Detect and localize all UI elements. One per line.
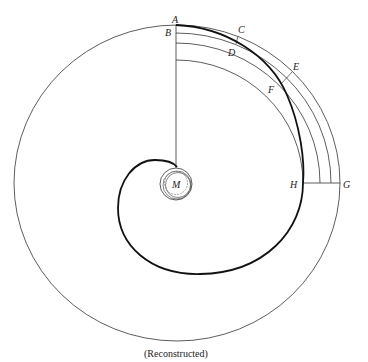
label-m: M xyxy=(171,179,181,190)
arc-1 xyxy=(176,33,331,183)
label-b: B xyxy=(165,27,171,38)
caption: (Reconstructed) xyxy=(144,348,208,360)
label-f: F xyxy=(267,84,275,95)
label-h: H xyxy=(289,179,298,190)
label-d: D xyxy=(227,47,236,58)
spiral-diagram: A B C D E F G H M (Reconstructed) xyxy=(0,0,368,362)
arc-3 xyxy=(176,60,303,183)
spiral-curve xyxy=(118,25,303,274)
label-e: E xyxy=(292,61,299,72)
label-g: G xyxy=(343,179,350,190)
label-a: A xyxy=(171,14,179,25)
label-c: C xyxy=(238,24,245,35)
